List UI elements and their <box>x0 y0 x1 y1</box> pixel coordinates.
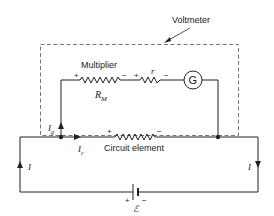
circuit-element-minus: − <box>157 127 162 136</box>
ig-arrow-icon <box>58 122 64 129</box>
voltmeter-label: Voltmeter <box>172 15 210 25</box>
voltmeter-pointer-arrow-icon <box>164 28 190 43</box>
multiplier-plus: + <box>74 71 79 80</box>
emf-symbol: ℰ <box>133 204 140 214</box>
circuit-element-plus: + <box>107 127 112 136</box>
battery-minus: − <box>142 196 147 205</box>
voltmeter-enclosure <box>41 45 239 136</box>
battery-icon <box>133 184 138 200</box>
ic-label: Ic <box>77 144 84 156</box>
internal-resistance-symbol: r <box>151 66 155 76</box>
multiplier-symbol: RM <box>94 89 108 103</box>
internal-plus: + <box>134 71 139 80</box>
ic-arrow-icon <box>74 134 81 140</box>
circuit-element-label: Circuit element <box>104 143 165 153</box>
multiplier-label: Multiplier <box>81 60 117 70</box>
multiplier-resistor-icon <box>80 77 120 83</box>
battery-plus: + <box>125 196 130 205</box>
i-right-label: I <box>247 162 252 172</box>
internal-resistor-icon <box>140 77 160 83</box>
junction-right <box>216 135 220 139</box>
internal-minus: − <box>164 71 169 80</box>
voltmeter-circuit-diagram: Voltmeter G Multiplier + − RM + r − + − … <box>0 0 274 216</box>
i-left-label: I <box>27 162 32 172</box>
multiplier-minus: − <box>122 71 127 80</box>
ig-label: Ig <box>47 123 54 135</box>
galvanometer-label: G <box>189 74 198 86</box>
junction-left <box>59 135 63 139</box>
i-right-arrow-icon <box>255 161 261 168</box>
circuit-element-resistor-icon <box>115 134 155 140</box>
i-left-arrow-icon <box>17 161 23 168</box>
